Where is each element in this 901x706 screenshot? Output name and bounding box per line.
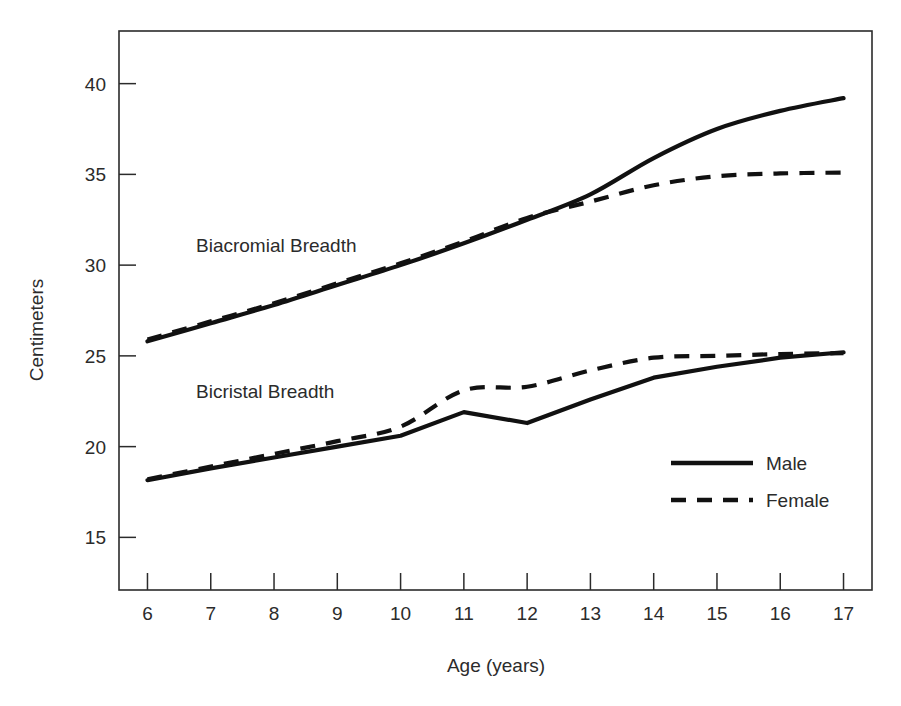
y-axis-title: Centimeters	[26, 279, 47, 381]
x-tick-label: 6	[142, 603, 153, 624]
x-tick-label: 7	[205, 603, 216, 624]
chart-container: 152025303540 67891011121314151617 Biacro…	[0, 0, 901, 706]
y-tick-label: 35	[85, 164, 106, 185]
y-tick-label: 25	[85, 346, 106, 367]
x-axis-title: Age (years)	[447, 655, 545, 676]
y-tick-label: 30	[85, 255, 106, 276]
annotation-biacromial-breadth: Biacromial Breadth	[196, 235, 357, 256]
x-tick-label: 11	[454, 603, 474, 624]
x-tick-label: 16	[770, 603, 791, 624]
x-tick-label: 12	[517, 603, 538, 624]
annotation-bicristal-breadth: Bicristal Breadth	[196, 381, 334, 402]
y-tick-label: 20	[85, 437, 106, 458]
breadth-by-age-line-chart: 152025303540 67891011121314151617 Biacro…	[0, 0, 901, 706]
x-tick-label: 8	[269, 603, 280, 624]
x-tick-label: 9	[332, 603, 343, 624]
y-tick-label: 40	[85, 74, 106, 95]
x-tick-label: 10	[390, 603, 411, 624]
x-tick-label: 13	[580, 603, 601, 624]
x-tick-label: 14	[643, 603, 665, 624]
legend-label-female: Female	[766, 490, 829, 511]
y-tick-label: 15	[85, 527, 106, 548]
legend-label-male: Male	[766, 453, 807, 474]
x-tick-label: 15	[706, 603, 727, 624]
x-tick-label: 17	[833, 603, 854, 624]
